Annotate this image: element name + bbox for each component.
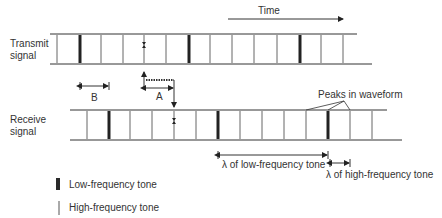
lambda-high-measure: λ of high-frequency tone xyxy=(326,159,434,180)
time-arrow: Time xyxy=(228,5,343,19)
reference-marker xyxy=(142,42,146,48)
time-label: Time xyxy=(258,5,280,16)
legend-high-label: High-frequency tone xyxy=(69,202,159,213)
legend-low-label: Low-frequency tone xyxy=(69,179,157,190)
b-label: B xyxy=(91,92,98,103)
a-label: A xyxy=(156,91,163,102)
peaks-label: Peaks in waveform xyxy=(318,89,402,100)
measurement-b: B xyxy=(80,82,109,103)
peaks-callout: Peaks in waveform xyxy=(306,89,402,110)
measurement-a: A xyxy=(144,72,174,107)
receive-signal: Receive signal xyxy=(10,110,402,140)
receive-label-line2: signal xyxy=(10,126,36,137)
lambda-low-measure: λ of low-frequency tone xyxy=(218,151,328,170)
transmit-label-line1: Transmit xyxy=(10,38,49,49)
transmit-waveform xyxy=(50,34,372,64)
transmit-signal: Transmit signal xyxy=(10,34,372,64)
lambda-low-label: λ of low-frequency tone xyxy=(222,159,326,170)
legend-low-swatch xyxy=(56,178,60,190)
receive-label-line1: Receive xyxy=(10,114,47,125)
reference-marker xyxy=(172,118,176,124)
timing-diagram: Time Transmit signal B A Receive signal … xyxy=(0,0,442,218)
lambda-high-label: λ of high-frequency tone xyxy=(326,169,434,180)
receive-waveform xyxy=(70,110,402,140)
transmit-label-line2: signal xyxy=(10,50,36,61)
legend: Low-frequency tone High-frequency tone xyxy=(56,178,159,215)
